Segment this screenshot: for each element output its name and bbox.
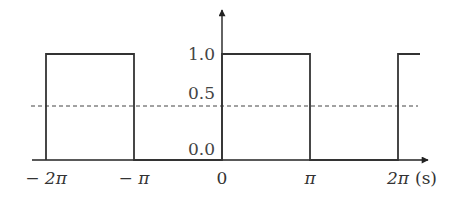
x-tick-2pi: 2π: [386, 168, 410, 188]
x-tick-zero: 0: [217, 168, 228, 188]
x-tick-pi: π: [303, 168, 316, 188]
y-tick-0-0: 0.0: [188, 139, 215, 159]
square-wave-line: [46, 54, 420, 160]
square-wave-chart: 1.0 0.5 0.0 − 2π − π 0 π 2π (s): [0, 0, 463, 199]
y-tick-0-5: 0.5: [188, 83, 215, 103]
x-tick-neg-pi: − π: [119, 168, 151, 188]
x-axis-unit-label: (s): [415, 168, 437, 188]
y-tick-1-0: 1.0: [188, 44, 215, 64]
x-tick-neg-2pi: − 2π: [25, 168, 67, 188]
